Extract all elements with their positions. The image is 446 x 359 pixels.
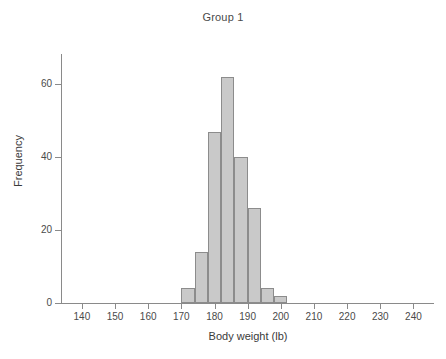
y-tick-label: 40 xyxy=(26,152,52,162)
histogram-bar xyxy=(208,132,221,303)
x-axis-title: Body weight (lb) xyxy=(62,330,434,342)
chart-title: Group 1 xyxy=(0,11,446,23)
x-tick-mark xyxy=(314,304,315,309)
histogram-bar xyxy=(181,288,194,303)
y-tick-label: 60 xyxy=(26,79,52,89)
histogram-bar xyxy=(248,208,261,303)
y-tick-mark xyxy=(55,157,61,158)
y-axis-title: Frequency xyxy=(12,126,24,196)
x-tick-mark xyxy=(248,304,249,309)
x-tick-mark xyxy=(413,304,414,309)
y-tick-mark xyxy=(55,84,61,85)
histogram-figure: Group 1 0204060 140150160170180190200210… xyxy=(0,0,446,359)
x-tick-mark xyxy=(148,304,149,309)
histogram-bar xyxy=(195,252,208,303)
x-tick-mark xyxy=(215,304,216,309)
x-tick-mark xyxy=(380,304,381,309)
x-tick-mark xyxy=(281,304,282,309)
x-tick-mark xyxy=(115,304,116,309)
histogram-bar xyxy=(274,296,287,303)
y-tick-label: 20 xyxy=(26,225,52,235)
x-tick-label: 240 xyxy=(393,311,433,322)
histogram-bar xyxy=(261,288,274,303)
histogram-bar xyxy=(234,157,247,303)
plot-area xyxy=(62,55,430,303)
y-tick-mark xyxy=(55,303,61,304)
y-tick-label: 0 xyxy=(26,298,52,308)
x-tick-mark xyxy=(347,304,348,309)
x-tick-mark xyxy=(82,304,83,309)
histogram-bar xyxy=(221,77,234,303)
y-tick-mark xyxy=(55,230,61,231)
x-tick-mark xyxy=(181,304,182,309)
